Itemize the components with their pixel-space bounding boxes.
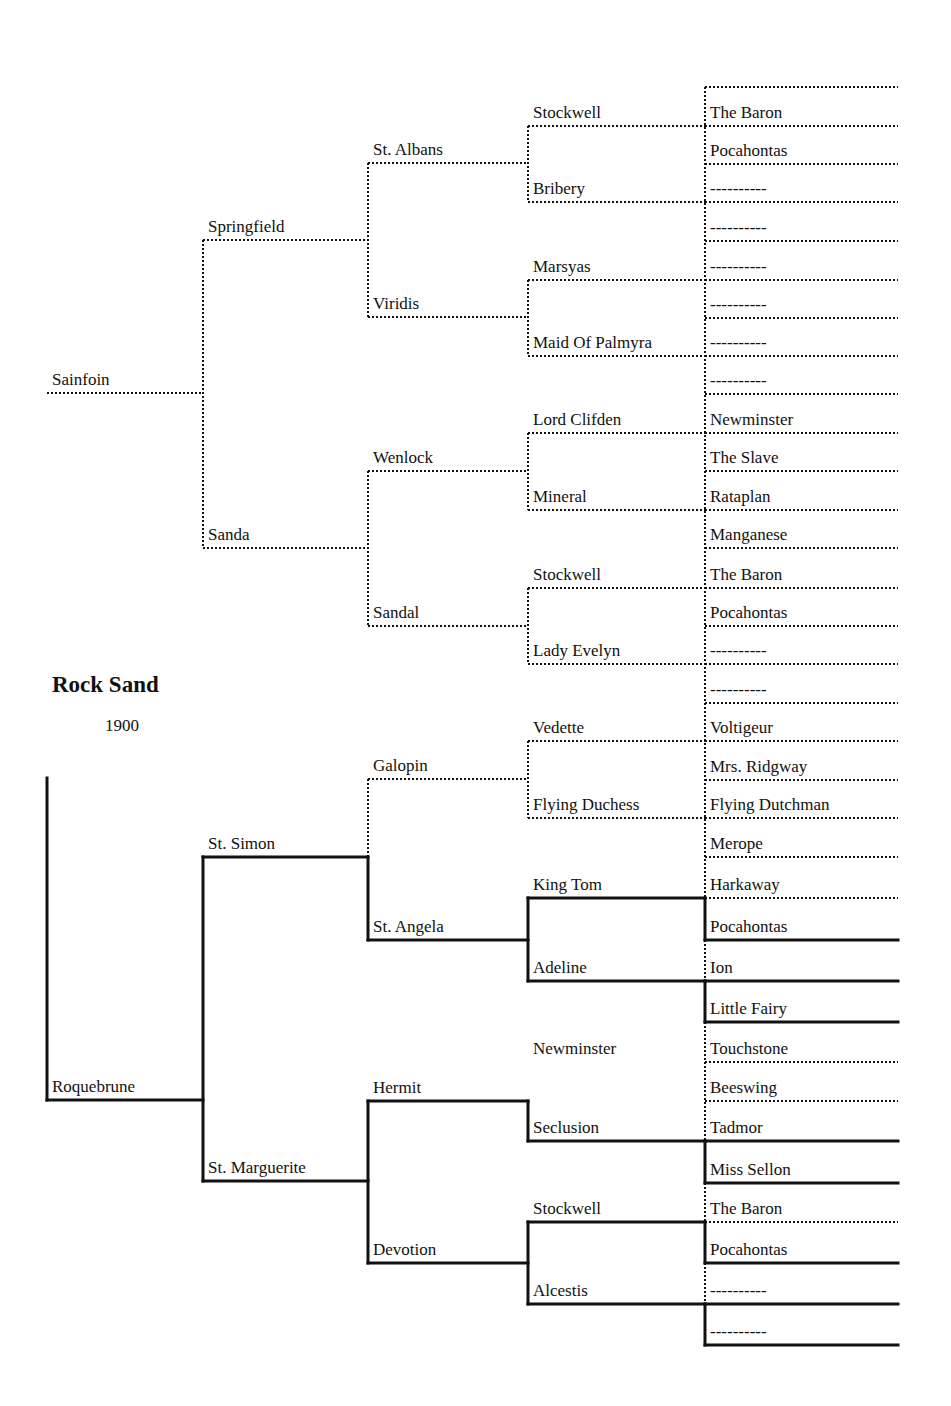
- ancestor-name: Stockwell: [533, 565, 601, 585]
- ancestor-name: St. Simon: [208, 834, 275, 854]
- ancestor-name: St. Albans: [373, 140, 443, 160]
- ancestor-name: Sanda: [208, 525, 250, 545]
- ancestor-name: ----------: [710, 257, 767, 277]
- ancestor-name: The Baron: [710, 1199, 782, 1219]
- ancestor-name: Vedette: [533, 718, 584, 738]
- ancestor-name: Ion: [710, 958, 733, 978]
- ancestor-name: Beeswing: [710, 1078, 777, 1098]
- ancestor-name: Miss Sellon: [710, 1160, 791, 1180]
- ancestor-name: Sandal: [373, 603, 419, 623]
- ancestor-name: Hermit: [373, 1078, 421, 1098]
- ancestor-name: Merope: [710, 834, 763, 854]
- ancestor-name: Wenlock: [373, 448, 433, 468]
- ancestor-name: Little Fairy: [710, 999, 787, 1019]
- ancestor-name: The Slave: [710, 448, 778, 468]
- ancestor-name: Marsyas: [533, 257, 591, 277]
- ancestor-name: Newminster: [533, 1039, 616, 1059]
- ancestor-name: ----------: [710, 218, 767, 238]
- ancestor-name: Lady Evelyn: [533, 641, 620, 661]
- ancestor-name: Mrs. Ridgway: [710, 757, 807, 777]
- ancestor-name: St. Marguerite: [208, 1158, 306, 1178]
- ancestor-name: The Baron: [710, 103, 782, 123]
- ancestor-name: Flying Dutchman: [710, 795, 829, 815]
- ancestor-name: Manganese: [710, 525, 787, 545]
- ancestor-name: Tadmor: [710, 1118, 763, 1138]
- ancestor-name: Devotion: [373, 1240, 436, 1260]
- ancestor-name: Pocahontas: [710, 1240, 787, 1260]
- ancestor-name: ----------: [710, 371, 767, 391]
- horse-birth-year: 1900: [105, 716, 139, 736]
- ancestor-name: Mineral: [533, 487, 587, 507]
- ancestor-name: King Tom: [533, 875, 602, 895]
- horse-name-title: Rock Sand: [52, 672, 159, 698]
- ancestor-name: ----------: [710, 295, 767, 315]
- ancestor-name: Voltigeur: [710, 718, 773, 738]
- ancestor-name: Rataplan: [710, 487, 770, 507]
- ancestor-name: Pocahontas: [710, 603, 787, 623]
- ancestor-name: Roquebrune: [52, 1077, 135, 1097]
- ancestor-name: ----------: [710, 333, 767, 353]
- ancestor-name: Springfield: [208, 217, 285, 237]
- ancestor-name: Newminster: [710, 410, 793, 430]
- ancestor-name: Flying Duchess: [533, 795, 639, 815]
- ancestor-name: ----------: [710, 680, 767, 700]
- ancestor-name: Pocahontas: [710, 141, 787, 161]
- ancestor-name: ----------: [710, 641, 767, 661]
- ancestor-name: Lord Clifden: [533, 410, 621, 430]
- ancestor-name: The Baron: [710, 565, 782, 585]
- ancestor-name: ----------: [710, 1322, 767, 1342]
- ancestor-name: Bribery: [533, 179, 585, 199]
- ancestor-name: Touchstone: [710, 1039, 788, 1059]
- ancestor-name: St. Angela: [373, 917, 444, 937]
- ancestor-name: Viridis: [373, 294, 419, 314]
- ancestor-name: Adeline: [533, 958, 587, 978]
- ancestor-name: Maid Of Palmyra: [533, 333, 652, 353]
- ancestor-name: Seclusion: [533, 1118, 599, 1138]
- ancestor-name: Sainfoin: [52, 370, 110, 390]
- pedigree-lines: [0, 0, 951, 1406]
- ancestor-name: Stockwell: [533, 1199, 601, 1219]
- ancestor-name: ----------: [710, 1281, 767, 1301]
- ancestor-name: Alcestis: [533, 1281, 588, 1301]
- ancestor-name: Harkaway: [710, 875, 780, 895]
- ancestor-name: Stockwell: [533, 103, 601, 123]
- ancestor-name: Galopin: [373, 756, 428, 776]
- ancestor-name: ----------: [710, 179, 767, 199]
- ancestor-name: Pocahontas: [710, 917, 787, 937]
